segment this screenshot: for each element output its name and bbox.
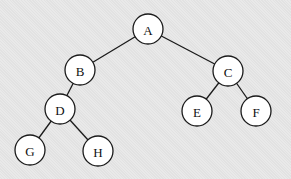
- node-b: B: [65, 55, 95, 85]
- node-label: E: [193, 105, 201, 120]
- node-d: D: [45, 94, 75, 124]
- node-label: B: [76, 64, 85, 79]
- node-f: F: [241, 96, 271, 126]
- node-label: G: [25, 144, 34, 159]
- node-c: C: [213, 56, 243, 86]
- node-label: A: [143, 23, 153, 38]
- node-h: H: [83, 136, 113, 166]
- tree-svg: ABCDEFGH: [0, 0, 291, 179]
- node-label: C: [224, 65, 233, 80]
- edges-group: [30, 29, 256, 151]
- node-e: E: [182, 96, 212, 126]
- node-g: G: [15, 135, 45, 165]
- tree-diagram: ABCDEFGH: [0, 0, 291, 179]
- nodes-group: ABCDEFGH: [15, 14, 271, 166]
- node-label: F: [252, 105, 259, 120]
- node-label: D: [55, 103, 64, 118]
- node-a: A: [133, 14, 163, 44]
- node-label: H: [93, 145, 102, 160]
